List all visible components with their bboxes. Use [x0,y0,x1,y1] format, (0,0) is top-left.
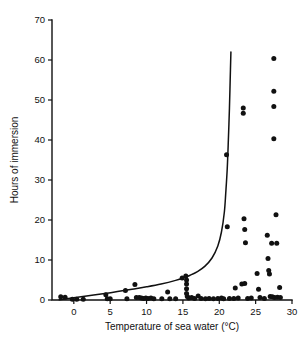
data-point [225,224,230,229]
y-tick-label: 10 [34,254,45,265]
x-tick-label: 0 [71,306,76,317]
data-point [266,256,271,261]
x-tick-label: 25 [250,306,261,317]
data-point [262,296,267,301]
data-point [255,271,260,276]
data-point [124,296,129,301]
data-point [274,212,279,217]
data-point [233,286,238,291]
axis-frame [52,20,292,300]
data-point [241,111,246,116]
data-point [242,216,247,221]
data-point [274,241,279,246]
x-axis-ticks: 051015202530 [71,300,297,317]
data-point [74,297,79,302]
data-point [271,104,276,109]
data-point [236,296,241,301]
y-tick-label: 50 [34,94,45,105]
x-tick-label: 20 [214,306,225,317]
data-point [278,295,283,300]
y-tick-label: 30 [34,174,45,185]
data-point [159,296,164,301]
x-tick-label: 30 [287,306,298,317]
data-point [207,296,212,301]
data-point [81,297,86,302]
data-point [269,241,274,246]
y-tick-label: 60 [34,54,45,65]
chart-figure: 010203040506070 051015202530 Temperature… [0,0,306,343]
data-point [184,286,189,291]
data-point [224,152,229,157]
x-tick-label: 5 [108,306,113,317]
y-tick-label: 40 [34,134,45,145]
x-tick-label: 10 [141,306,152,317]
data-point [58,294,63,299]
data-point [227,296,232,301]
data-point [242,227,247,232]
data-point [221,296,226,301]
fitted-curve [59,52,231,300]
data-point [151,296,156,301]
data-point [231,296,236,301]
y-tick-label: 70 [34,14,45,25]
data-point [265,233,270,238]
data-point [123,288,128,293]
data-point [267,272,272,277]
y-axis-ticks: 010203040506070 [34,14,52,305]
data-point [165,290,170,295]
data-point [70,297,75,302]
data-point [173,296,178,301]
data-point [184,282,189,287]
x-tick-label: 15 [178,306,189,317]
data-point [271,89,276,94]
data-point [258,295,263,300]
data-point [271,56,276,61]
y-tick-label: 20 [34,214,45,225]
x-axis-title: Temperature of sea water (°C) [105,321,239,332]
data-point [249,296,254,301]
data-point [241,106,246,111]
data-point [271,136,276,141]
data-point [199,296,204,301]
data-point [277,285,282,290]
data-point [211,296,216,301]
data-point [108,296,113,301]
data-point [243,240,248,245]
data-point [132,282,137,287]
data-point [256,287,261,292]
data-point [242,281,247,286]
scatter-plot-svg: 010203040506070 051015202530 Temperature… [0,0,306,343]
data-point [63,295,68,300]
y-axis-title: Hours of immersion [9,117,20,204]
y-tick-label: 0 [40,294,45,305]
data-points-group [58,56,283,302]
data-point [167,296,172,301]
